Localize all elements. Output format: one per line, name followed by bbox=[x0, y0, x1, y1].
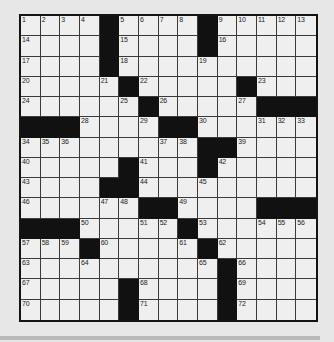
grid-cell[interactable] bbox=[237, 57, 257, 77]
grid-cell[interactable] bbox=[60, 77, 80, 97]
grid-cell[interactable]: 37 bbox=[159, 138, 179, 158]
grid-cell[interactable]: 53 bbox=[198, 219, 218, 239]
grid-cell[interactable]: 27 bbox=[237, 97, 257, 117]
grid-cell[interactable] bbox=[60, 36, 80, 56]
grid-cell[interactable] bbox=[60, 97, 80, 117]
grid-cell[interactable] bbox=[218, 77, 238, 97]
grid-cell[interactable] bbox=[80, 138, 100, 158]
grid-cell[interactable] bbox=[277, 77, 297, 97]
grid-cell[interactable]: 31 bbox=[257, 117, 277, 137]
grid-cell[interactable]: 25 bbox=[119, 97, 139, 117]
grid-cell[interactable] bbox=[277, 300, 297, 320]
grid-cell[interactable] bbox=[198, 97, 218, 117]
grid-cell[interactable] bbox=[257, 158, 277, 178]
grid-cell[interactable] bbox=[41, 77, 61, 97]
grid-cell[interactable] bbox=[257, 259, 277, 279]
grid-cell[interactable]: 67 bbox=[21, 279, 41, 299]
grid-cell[interactable]: 13 bbox=[296, 16, 316, 36]
grid-cell[interactable] bbox=[257, 279, 277, 299]
grid-cell[interactable] bbox=[80, 300, 100, 320]
grid-cell[interactable]: 61 bbox=[178, 239, 198, 259]
grid-cell[interactable]: 14 bbox=[21, 36, 41, 56]
grid-cell[interactable] bbox=[237, 158, 257, 178]
grid-cell[interactable] bbox=[80, 57, 100, 77]
grid-cell[interactable] bbox=[198, 77, 218, 97]
grid-cell[interactable] bbox=[80, 36, 100, 56]
grid-cell[interactable] bbox=[159, 279, 179, 299]
grid-cell[interactable]: 52 bbox=[159, 219, 179, 239]
grid-cell[interactable]: 40 bbox=[21, 158, 41, 178]
grid-cell[interactable]: 4 bbox=[80, 16, 100, 36]
grid-cell[interactable] bbox=[159, 77, 179, 97]
grid-cell[interactable]: 49 bbox=[178, 198, 198, 218]
grid-cell[interactable] bbox=[60, 57, 80, 77]
grid-cell[interactable] bbox=[80, 158, 100, 178]
grid-cell[interactable] bbox=[178, 259, 198, 279]
grid-cell[interactable] bbox=[60, 178, 80, 198]
grid-cell[interactable]: 62 bbox=[218, 239, 238, 259]
grid-cell[interactable] bbox=[277, 138, 297, 158]
grid-cell[interactable]: 46 bbox=[21, 198, 41, 218]
grid-cell[interactable] bbox=[159, 158, 179, 178]
grid-cell[interactable] bbox=[119, 259, 139, 279]
grid-cell[interactable] bbox=[41, 300, 61, 320]
grid-cell[interactable]: 54 bbox=[257, 219, 277, 239]
grid-cell[interactable]: 56 bbox=[296, 219, 316, 239]
grid-cell[interactable] bbox=[41, 57, 61, 77]
grid-cell[interactable] bbox=[41, 158, 61, 178]
grid-cell[interactable] bbox=[60, 259, 80, 279]
grid-cell[interactable]: 7 bbox=[159, 16, 179, 36]
grid-cell[interactable]: 64 bbox=[80, 259, 100, 279]
grid-cell[interactable]: 41 bbox=[139, 158, 159, 178]
grid-cell[interactable]: 2 bbox=[41, 16, 61, 36]
grid-cell[interactable]: 15 bbox=[119, 36, 139, 56]
grid-cell[interactable]: 8 bbox=[178, 16, 198, 36]
grid-cell[interactable] bbox=[41, 178, 61, 198]
grid-cell[interactable] bbox=[119, 117, 139, 137]
grid-cell[interactable]: 47 bbox=[100, 198, 120, 218]
grid-cell[interactable]: 58 bbox=[41, 239, 61, 259]
grid-cell[interactable] bbox=[100, 158, 120, 178]
grid-cell[interactable]: 12 bbox=[277, 16, 297, 36]
grid-cell[interactable]: 32 bbox=[277, 117, 297, 137]
grid-cell[interactable] bbox=[218, 97, 238, 117]
grid-cell[interactable]: 10 bbox=[237, 16, 257, 36]
grid-cell[interactable] bbox=[41, 259, 61, 279]
grid-cell[interactable]: 57 bbox=[21, 239, 41, 259]
grid-cell[interactable] bbox=[139, 259, 159, 279]
grid-cell[interactable]: 6 bbox=[139, 16, 159, 36]
grid-cell[interactable] bbox=[139, 36, 159, 56]
grid-cell[interactable]: 18 bbox=[119, 57, 139, 77]
grid-cell[interactable]: 19 bbox=[198, 57, 218, 77]
grid-cell[interactable]: 55 bbox=[277, 219, 297, 239]
grid-cell[interactable] bbox=[296, 138, 316, 158]
grid-cell[interactable]: 11 bbox=[257, 16, 277, 36]
grid-cell[interactable] bbox=[237, 219, 257, 239]
grid-cell[interactable] bbox=[257, 178, 277, 198]
grid-cell[interactable] bbox=[159, 178, 179, 198]
grid-cell[interactable] bbox=[257, 36, 277, 56]
grid-cell[interactable]: 9 bbox=[218, 16, 238, 36]
grid-cell[interactable] bbox=[178, 178, 198, 198]
grid-cell[interactable] bbox=[139, 57, 159, 77]
grid-cell[interactable] bbox=[159, 239, 179, 259]
grid-cell[interactable]: 65 bbox=[198, 259, 218, 279]
grid-cell[interactable] bbox=[178, 300, 198, 320]
grid-cell[interactable] bbox=[277, 158, 297, 178]
grid-cell[interactable] bbox=[178, 158, 198, 178]
grid-cell[interactable]: 43 bbox=[21, 178, 41, 198]
grid-cell[interactable] bbox=[119, 219, 139, 239]
grid-cell[interactable] bbox=[218, 117, 238, 137]
grid-cell[interactable] bbox=[237, 36, 257, 56]
grid-cell[interactable] bbox=[178, 77, 198, 97]
grid-cell[interactable] bbox=[237, 239, 257, 259]
grid-cell[interactable]: 45 bbox=[198, 178, 218, 198]
grid-cell[interactable] bbox=[277, 36, 297, 56]
grid-cell[interactable]: 16 bbox=[218, 36, 238, 56]
grid-cell[interactable] bbox=[257, 239, 277, 259]
grid-cell[interactable] bbox=[100, 259, 120, 279]
grid-cell[interactable]: 44 bbox=[139, 178, 159, 198]
grid-cell[interactable]: 71 bbox=[139, 300, 159, 320]
grid-cell[interactable] bbox=[178, 57, 198, 77]
grid-cell[interactable]: 48 bbox=[119, 198, 139, 218]
